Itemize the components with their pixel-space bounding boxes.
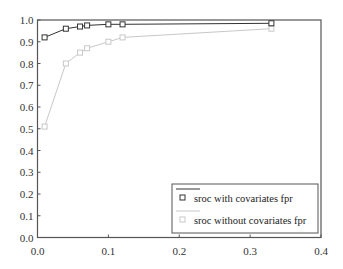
square-marker-icon	[106, 22, 111, 27]
legend-label: sroc with covariates fpr	[194, 193, 293, 204]
x-tick-label: 0.3	[243, 245, 257, 257]
plot-series	[42, 21, 274, 129]
square-marker-icon	[120, 22, 125, 27]
legend-label: sroc without covariates fpr	[194, 215, 307, 226]
sroc-chart: 0.00.10.20.30.4 0.00.10.20.30.40.50.60.7…	[0, 0, 343, 269]
y-tick-label: 0.7	[20, 79, 34, 91]
square-marker-icon	[78, 50, 83, 55]
y-tick-label: 0.9	[20, 36, 34, 48]
square-marker-icon	[78, 24, 83, 29]
series-without-covariates	[42, 26, 274, 129]
square-marker-icon	[42, 124, 47, 129]
square-marker-icon	[269, 21, 274, 26]
square-marker-icon	[42, 35, 47, 40]
legend: sroc with covariates fprsroc without cov…	[172, 184, 318, 233]
square-marker-icon	[180, 217, 185, 222]
square-marker-icon	[269, 26, 274, 31]
x-tick-label: 0.2	[172, 245, 186, 257]
square-marker-icon	[85, 23, 90, 28]
x-tick-label: 0.1	[102, 245, 116, 257]
x-tick-label: 0.4	[314, 245, 328, 257]
y-tick-label: 0.8	[20, 58, 34, 70]
x-tick-label: 0.0	[31, 245, 45, 257]
y-tick-label: 0.4	[20, 145, 34, 157]
y-tick-label: 0.6	[20, 101, 34, 113]
square-marker-icon	[106, 39, 111, 44]
legend-box	[172, 184, 318, 233]
square-marker-icon	[63, 26, 68, 31]
y-tick-label: 1.0	[20, 14, 34, 26]
y-tick-label: 0.2	[20, 188, 34, 200]
series-line	[45, 29, 272, 127]
y-tick-label: 0.5	[20, 123, 34, 135]
square-marker-icon	[120, 35, 125, 40]
y-tick-label: 0.0	[20, 232, 34, 244]
y-tick-label: 0.1	[20, 210, 34, 222]
square-marker-icon	[85, 46, 90, 51]
y-tick-label: 0.3	[20, 166, 34, 178]
square-marker-icon	[180, 195, 185, 200]
square-marker-icon	[63, 61, 68, 66]
